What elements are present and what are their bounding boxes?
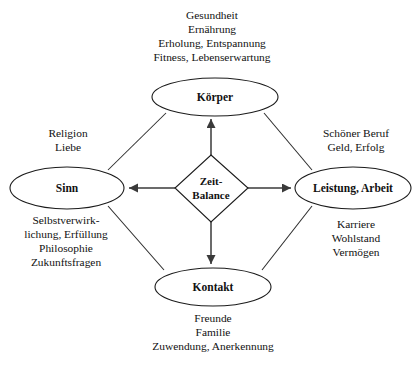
leistung-arbeit-label: Leistung, Arbeit [313, 182, 393, 195]
caption-koerper-line-1: Ernährung [188, 23, 236, 35]
caption-leistung-above-line-0: Schöner Beruf [323, 127, 389, 139]
caption-sinn-below-line-0: Selbstverwirk- [32, 214, 99, 226]
caption-kontakt: Freunde Familie Zuwendung, Anerkennung [152, 312, 274, 352]
node-koerper[interactable]: Körper [152, 78, 278, 116]
koerper-label: Körper [197, 91, 233, 104]
zeit-balance-label-line1: Zeit- [200, 175, 223, 187]
node-leistung-arbeit[interactable]: Leistung, Arbeit [295, 167, 411, 209]
link-kontakt-sinn [108, 206, 164, 270]
caption-sinn-below: Selbstverwirk- lichung, Erfüllung Philos… [24, 214, 108, 268]
caption-leistung-above: Schöner Beruf Geld, Erfolg [323, 127, 389, 153]
zeit-balance-diagram: Körper Sinn Leistung, Arbeit Kontakt Zei… [0, 0, 415, 365]
caption-sinn-above: Religion Liebe [48, 127, 88, 153]
zeit-balance-label-line2: Balance [192, 189, 229, 201]
caption-leistung-below: Karriere Wohlstand Vermögen [332, 218, 381, 258]
caption-leistung-below-line-1: Wohlstand [332, 232, 381, 244]
caption-koerper-line-2: Erholung, Entspannung [158, 37, 266, 49]
node-kontakt[interactable]: Kontakt [155, 268, 271, 306]
link-koerper-leistung [264, 113, 312, 170]
node-sinn[interactable]: Sinn [10, 167, 124, 209]
kontakt-label: Kontakt [193, 281, 234, 293]
caption-koerper: Gesundheit Ernährung Erholung, Entspannu… [153, 9, 270, 63]
link-leistung-kontakt [262, 206, 312, 270]
caption-sinn-below-line-2: Philosophie [39, 242, 93, 254]
link-sinn-koerper [108, 113, 166, 170]
caption-kontakt-line-1: Familie [196, 326, 231, 338]
caption-leistung-above-line-1: Geld, Erfolg [328, 141, 385, 153]
caption-koerper-line-0: Gesundheit [186, 9, 239, 21]
caption-koerper-line-3: Fitness, Lebenserwartung [153, 51, 270, 63]
caption-sinn-below-line-3: Zukunftsfragen [31, 256, 102, 268]
caption-sinn-below-line-1: lichung, Erfüllung [24, 228, 108, 240]
caption-leistung-below-line-2: Vermögen [333, 246, 380, 258]
caption-sinn-above-line-1: Liebe [55, 141, 81, 153]
caption-leistung-below-line-0: Karriere [337, 218, 375, 230]
caption-kontakt-line-0: Freunde [194, 312, 231, 324]
sinn-label: Sinn [56, 182, 79, 194]
caption-kontakt-line-2: Zuwendung, Anerkennung [152, 340, 274, 352]
diagram-canvas: Körper Sinn Leistung, Arbeit Kontakt Zei… [0, 0, 415, 365]
node-zeit-balance[interactable]: Zeit- Balance [175, 155, 248, 222]
caption-sinn-above-line-0: Religion [48, 127, 88, 139]
